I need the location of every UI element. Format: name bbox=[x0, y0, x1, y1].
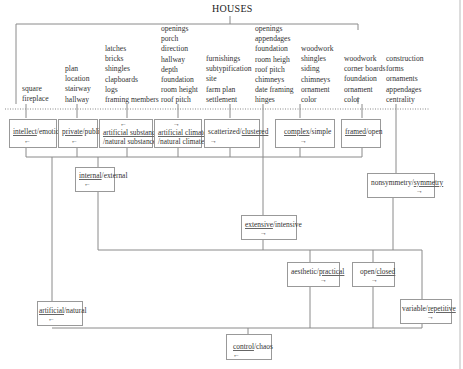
feature-item: chimneys bbox=[301, 75, 333, 85]
feature-item: corner boards bbox=[344, 64, 386, 74]
node-extensive-intensive: extensive/intensive → bbox=[241, 215, 297, 240]
node-nonsymmetry-symmetry: nonsymmetry/symmetry → bbox=[367, 173, 435, 198]
feature-item: room height bbox=[161, 85, 198, 95]
feature-item: date framing bbox=[255, 85, 294, 95]
feature-item: ornament bbox=[344, 85, 386, 95]
feature-item: roof pitch bbox=[255, 65, 294, 75]
node-artificial-natural: artificial/natural ← bbox=[37, 301, 83, 326]
feature-item: woodwork bbox=[301, 44, 333, 54]
feature-item: shingles bbox=[105, 64, 159, 74]
arrow-right-icon: → bbox=[210, 137, 216, 145]
feature-item: settlement bbox=[206, 95, 252, 105]
feature-column-9: construction forms ornaments appendages … bbox=[386, 54, 424, 105]
arrow-right-icon: → bbox=[300, 137, 306, 145]
feature-item: farm plan bbox=[206, 85, 252, 95]
node-internal-external: internal/external ← bbox=[75, 167, 115, 192]
feature-item: openings bbox=[255, 24, 294, 34]
arrow-right-icon: → bbox=[371, 276, 377, 284]
feature-column-6: openings appendages foundation room heig… bbox=[255, 24, 294, 106]
feature-item: ornaments bbox=[386, 74, 424, 84]
arrow-left-icon: ← bbox=[233, 351, 239, 359]
arrow-right-icon: → bbox=[427, 313, 433, 321]
feature-item: appendages bbox=[255, 34, 294, 44]
feature-item: porch bbox=[161, 34, 198, 44]
feature-column-8: woodwork corner boards foundation orname… bbox=[344, 54, 386, 105]
feature-item: ornament bbox=[301, 85, 333, 95]
feature-item: foundation bbox=[255, 44, 294, 54]
feature-column-7: woodwork shingles siding chimneys orname… bbox=[301, 44, 333, 105]
feature-column-2: plan location stairway hallway bbox=[65, 64, 91, 105]
feature-item: fireplace bbox=[22, 94, 49, 104]
feature-item: hallway bbox=[161, 55, 198, 65]
node-control-chaos: control/chaos ← bbox=[226, 334, 272, 360]
arrow-right-icon: → bbox=[260, 229, 266, 237]
node-open-closed: open/closed → bbox=[352, 262, 395, 287]
feature-item: framing members bbox=[105, 95, 159, 105]
arrow-left-icon: ← bbox=[71, 137, 77, 145]
feature-item: siding bbox=[301, 64, 333, 74]
feature-item: logs bbox=[105, 85, 159, 95]
feature-item: foundation bbox=[344, 74, 386, 84]
feature-item: centrality bbox=[386, 95, 424, 105]
feature-column-5: furnishings subtypification site farm pl… bbox=[206, 54, 252, 105]
arrow-left-icon: ← bbox=[120, 120, 126, 128]
feature-item: plan bbox=[65, 64, 91, 74]
node-complex-simple: complex/simple → bbox=[275, 119, 335, 148]
feature-item: direction bbox=[161, 44, 198, 54]
node-artificial-substance: ← artificial substance /natural substanc… bbox=[99, 119, 153, 148]
arrow-right-icon: → bbox=[416, 187, 422, 195]
feature-item: construction bbox=[386, 54, 424, 64]
feature-item: color bbox=[301, 95, 333, 105]
feature-item: room heigh bbox=[255, 55, 294, 65]
node-framed-open: framed/open bbox=[341, 119, 381, 148]
feature-item: chimneys bbox=[255, 75, 294, 85]
node-intellect-emotion: intellect/emotion ← bbox=[9, 119, 57, 148]
arrow-right-icon: → bbox=[320, 276, 326, 284]
feature-item: hallway bbox=[65, 95, 91, 105]
arrow-left-icon: ← bbox=[24, 137, 30, 145]
diagram-title: HOUSES bbox=[212, 3, 253, 14]
feature-item: forms bbox=[386, 64, 424, 74]
feature-item: location bbox=[65, 74, 91, 84]
feature-item: stairway bbox=[65, 84, 91, 94]
feature-column-4: openings porch direction hallway depth f… bbox=[161, 24, 198, 106]
feature-item: color bbox=[344, 95, 386, 105]
feature-item: roof pitch bbox=[161, 95, 198, 105]
feature-item: furnishings bbox=[206, 54, 252, 64]
feature-item: openings bbox=[161, 24, 198, 34]
arrow-left-icon: ← bbox=[84, 180, 90, 188]
feature-item: hinges bbox=[255, 95, 294, 105]
feature-item: clapboards bbox=[105, 75, 159, 85]
node-scatterized-clustered: scatterized/clustered → bbox=[204, 119, 260, 148]
feature-item: latches bbox=[105, 44, 159, 54]
node-variable-repetitive: variable/repetitive → bbox=[400, 299, 452, 324]
node-artificial-climate: → artificial climate /natural climate bbox=[154, 119, 202, 148]
feature-item: square bbox=[22, 84, 49, 94]
feature-item: woodwork bbox=[344, 54, 386, 64]
feature-item: shingles bbox=[301, 54, 333, 64]
feature-column-1: square fireplace bbox=[22, 84, 49, 104]
feature-item: subtypification bbox=[206, 64, 252, 74]
arrow-left-icon: ← bbox=[48, 315, 54, 323]
feature-item: foundation bbox=[161, 75, 198, 85]
feature-item: appendages bbox=[386, 85, 424, 95]
feature-item: depth bbox=[161, 65, 198, 75]
feature-column-3: latches bricks shingles clapboards logs … bbox=[105, 44, 159, 105]
feature-item: site bbox=[206, 74, 252, 84]
feature-item: bricks bbox=[105, 54, 159, 64]
arrow-right-icon: → bbox=[173, 120, 179, 128]
node-aesthetic-practical: aesthetic/practical → bbox=[287, 262, 340, 287]
node-private-public: private/public ← bbox=[58, 119, 98, 148]
